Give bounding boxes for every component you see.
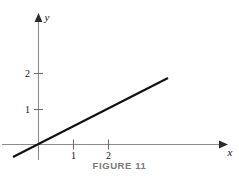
x-tick-label-1: 1 (71, 150, 76, 160)
plotted-line (13, 78, 168, 157)
x-tick-label-2: 2 (106, 150, 111, 160)
figure-caption: FIGURE 11 (0, 160, 239, 171)
y-tick-label-1: 1 (25, 104, 30, 115)
y-tick-label-2: 2 (25, 68, 30, 79)
x-axis-label: x (227, 146, 233, 158)
plot-area: 1 2 1 2 x y (0, 0, 239, 160)
y-axis-arrowhead (35, 13, 43, 22)
y-axis-label: y (44, 11, 50, 23)
figure-container: 1 2 1 2 x y FIGURE 11 (0, 0, 239, 181)
coordinate-plot: 1 2 1 2 x y (0, 0, 239, 160)
